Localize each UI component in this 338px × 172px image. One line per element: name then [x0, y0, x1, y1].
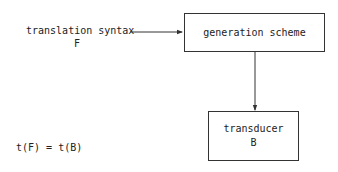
generation-scheme-box: generation scheme: [184, 13, 325, 52]
translation-syntax-label: translation syntax: [26, 25, 134, 37]
transducer-label: transducer: [209, 123, 298, 135]
transducer-box: transducer B: [208, 111, 299, 161]
generation-scheme-label: generation scheme: [185, 27, 324, 39]
transducer-symbol: B: [209, 137, 298, 149]
equation: t(F) = t(B): [16, 142, 82, 154]
translation-syntax-symbol: F: [74, 38, 80, 50]
